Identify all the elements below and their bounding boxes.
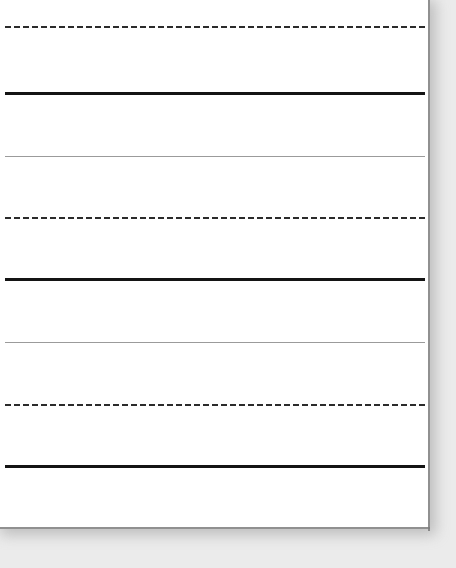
rule-line-dashed bbox=[5, 404, 425, 406]
ruling-layer bbox=[0, 0, 430, 529]
rule-line-solid-thin bbox=[5, 156, 425, 157]
rule-line-solid-bold bbox=[5, 465, 425, 468]
rule-line-solid-bold bbox=[5, 92, 425, 95]
paper-sheet bbox=[0, 0, 430, 529]
rule-line-solid-thin bbox=[5, 342, 425, 343]
rule-line-solid-bold bbox=[5, 278, 425, 281]
paper-edge-bottom bbox=[0, 527, 430, 529]
rule-line-dashed bbox=[5, 217, 425, 219]
rule-line-dashed bbox=[5, 26, 425, 28]
paper-edge-right bbox=[428, 0, 430, 531]
page-canvas bbox=[0, 0, 456, 568]
